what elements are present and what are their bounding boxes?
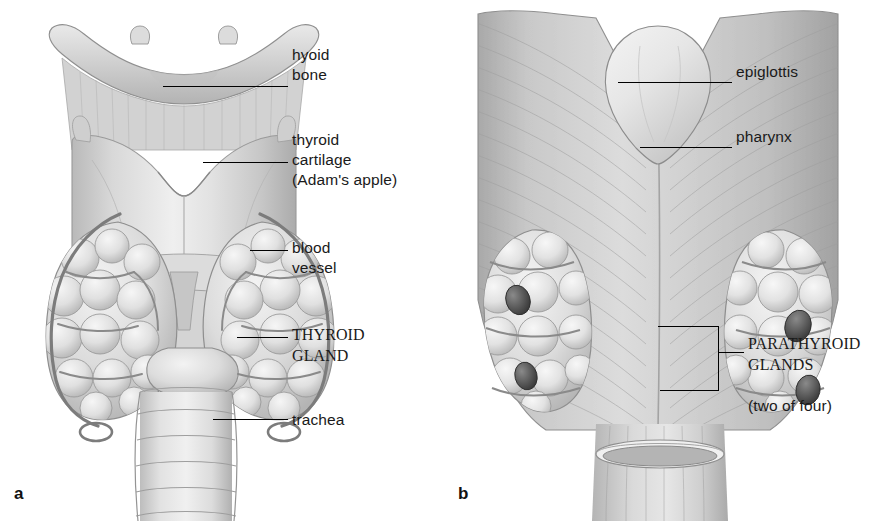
leader-parathyroid-inferior [660, 390, 718, 391]
label-thyroid-gland: THYROID GLAND [292, 325, 365, 367]
panel-letter-a: a [14, 484, 23, 504]
bracket-parathyroid-spine [718, 326, 719, 391]
leader-blood-vessel [250, 250, 288, 251]
label-parathyroid-glands-subtitle: (two of four) [748, 396, 861, 416]
leader-epiglottis [618, 82, 732, 83]
anatomy-figure: hyoid bone thyroid cartilage (Adam's app… [0, 0, 885, 521]
panel-a-anterior-view: hyoid bone thyroid cartilage (Adam's app… [0, 0, 440, 521]
leader-thyroid-cartilage [203, 162, 288, 163]
oesophagus-art [592, 424, 728, 521]
label-trachea: trachea [292, 410, 344, 430]
panel-b-illustration [440, 0, 885, 521]
panel-a-illustration [0, 0, 440, 521]
panel-letter-b: b [458, 484, 468, 504]
leader-thyroid-gland [237, 337, 288, 338]
label-thyroid-cartilage: thyroid cartilage (Adam's apple) [292, 130, 397, 190]
thyroid-lobe-left-posterior-art [479, 230, 595, 421]
label-blood-vessel: blood vessel [292, 238, 337, 278]
panel-b-posterior-view: epiglottis pharynx PARATHYROID GLANDS (t… [440, 0, 885, 521]
leader-pharynx [640, 147, 732, 148]
label-parathyroid-glands-main: PARATHYROID GLANDS [748, 334, 861, 376]
label-epiglottis: epiglottis [736, 62, 798, 82]
leader-parathyroid-out [718, 352, 744, 353]
label-parathyroid-glands: PARATHYROID GLANDS (two of four) [748, 313, 861, 437]
trachea-art [135, 388, 237, 521]
label-pharynx: pharynx [736, 127, 792, 147]
leader-trachea [213, 419, 288, 420]
label-hyoid-bone: hyoid bone [292, 45, 330, 85]
leader-parathyroid-superior [658, 326, 718, 327]
leader-hyoid-bone [163, 86, 288, 87]
